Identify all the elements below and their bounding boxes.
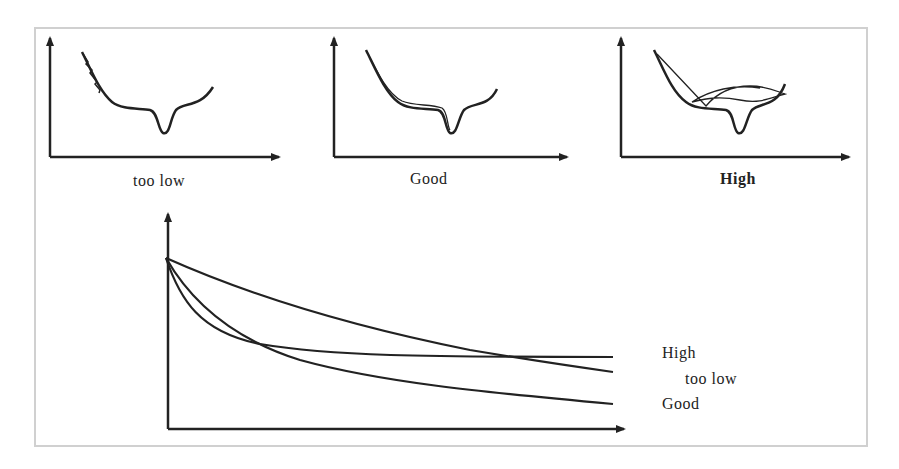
panel-caption-high: High xyxy=(720,170,756,188)
panel-caption-too-low: too low xyxy=(133,172,185,190)
curve-label-good: Good xyxy=(662,395,700,413)
loss-curve xyxy=(366,50,497,133)
curve-label-too-low: too low xyxy=(685,370,737,388)
panel-good xyxy=(334,38,567,157)
curve-good xyxy=(166,258,613,404)
panel-high xyxy=(621,38,849,157)
diagram-canvas xyxy=(0,0,899,469)
loss-curve xyxy=(82,52,213,133)
loss-curve xyxy=(654,50,785,133)
curve-high xyxy=(166,258,613,357)
trajectory xyxy=(657,54,785,106)
panel-too-low xyxy=(50,38,279,157)
panel-caption-good: Good xyxy=(410,170,448,188)
trajectory xyxy=(367,52,450,130)
main-chart xyxy=(166,214,624,429)
curve-label-high: High xyxy=(662,344,696,362)
